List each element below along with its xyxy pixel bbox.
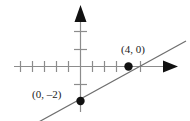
point-label-0-minus2: (0, –2): [32, 89, 61, 100]
plotted-line: [35, 41, 186, 121]
coordinate-plane-figure: (4, 0) (0, –2): [0, 0, 190, 121]
data-point-4-0: [124, 62, 132, 70]
data-point-0-minus2: [76, 97, 84, 105]
graph-canvas: [0, 0, 190, 121]
point-label-4-0: (4, 0): [121, 44, 145, 55]
y-axis-arrowhead-icon: [75, 5, 87, 22]
x-axis-arrowhead-icon: [163, 61, 178, 73]
